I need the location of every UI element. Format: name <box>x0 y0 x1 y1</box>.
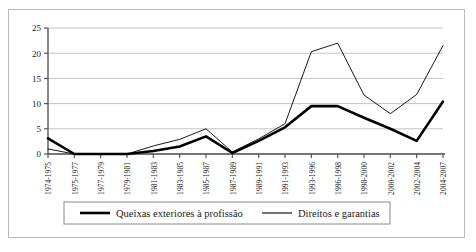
legend-label-direitos: Direitos e garantias <box>298 208 380 219</box>
x-tick-label: 1983-1985 <box>176 162 185 195</box>
x-tick-label: 2004-2007 <box>439 162 448 195</box>
y-tick-labels: 0510152025 <box>32 23 42 159</box>
legend-box: Queixas exteriores à profissão Direitos … <box>64 202 390 224</box>
y-tick-label: 10 <box>32 99 42 109</box>
x-tick-label: 1985-1987 <box>202 162 211 195</box>
legend-label-queixas: Queixas exteriores à profissão <box>116 208 243 219</box>
x-tick-label: 1998-2000 <box>360 162 369 195</box>
x-tick-label: 1979-1981 <box>123 162 132 195</box>
x-tick-label: 1996-1998 <box>334 162 343 195</box>
x-tick-label: 1974-1975 <box>44 162 53 195</box>
x-tick-label: 1981-1983 <box>150 162 159 195</box>
x-tick-label: 2000-2002 <box>387 162 396 195</box>
x-tick-label: 1977-1979 <box>97 162 106 195</box>
y-tick-label: 25 <box>32 23 42 33</box>
y-tick-label: 15 <box>32 74 42 84</box>
series-direitos-e-garantias <box>48 43 443 154</box>
y-tick-label: 20 <box>32 49 42 59</box>
x-tick-label: 2002-2004 <box>413 162 422 195</box>
y-tick-label: 5 <box>37 124 42 134</box>
x-tick-label: 1991-1993 <box>281 162 290 195</box>
line-chart: 0510152025 1974-19751975-19771977-197919… <box>0 0 476 252</box>
x-tick-label: 1975-1977 <box>71 162 80 195</box>
chart-figure: 0510152025 1974-19751975-19771977-197919… <box>0 0 476 252</box>
x-tick-labels: 1974-19751975-19771977-19791979-19811981… <box>44 162 448 195</box>
gridlines <box>48 28 443 129</box>
x-tick-label: 1987-1989 <box>229 162 238 195</box>
x-tick-label: 1989-1991 <box>255 162 264 195</box>
y-tick-label: 0 <box>37 149 42 159</box>
x-tick-label: 1993-1996 <box>308 162 317 195</box>
